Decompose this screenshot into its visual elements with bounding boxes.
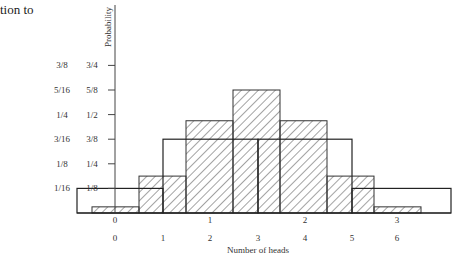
x-tick-label-lower: 6: [395, 233, 400, 243]
y-tick-label-outer: 1/16: [54, 183, 71, 193]
x-tick-label-upper: 2: [303, 215, 308, 225]
x-tick-label-lower: 2: [208, 233, 213, 243]
x-tick-label-lower: 4: [303, 233, 308, 243]
x-tick-label-upper: 0: [113, 215, 118, 225]
y-tick-label-outer: 3/8: [56, 60, 68, 70]
x-tick-label-upper: 3: [395, 215, 400, 225]
x-tick-label-upper: 1: [208, 215, 213, 225]
y-tick-label-inner: 5/8: [86, 85, 98, 95]
y-tick-label-outer: 5/16: [54, 85, 71, 95]
y-axis-label: Probability: [103, 7, 113, 47]
x-tick-label-lower: 0: [113, 233, 118, 243]
x-tick-label-lower: 3: [256, 233, 261, 243]
hatched-bar-3: [233, 90, 280, 213]
y-tick-label-inner: 1/8: [86, 183, 98, 193]
hatched-bars-6-tosses: [92, 90, 421, 213]
hatched-bar-4: [280, 121, 327, 213]
y-tick-label-inner: 1/4: [86, 159, 98, 169]
hatched-bar-6: [374, 207, 421, 213]
y-tick-label-inner: 1/2: [86, 110, 98, 120]
histogram-chart: 1/161/81/81/43/163/81/41/25/165/83/83/4P…: [0, 0, 456, 255]
hatched-bar-2: [186, 121, 233, 213]
y-tick-label-inner: 3/8: [86, 134, 98, 144]
y-tick-label-outer: 1/8: [56, 159, 68, 169]
hatched-bar-5: [327, 176, 374, 213]
y-tick-label-outer: 3/16: [54, 134, 71, 144]
y-tick-label-outer: 1/4: [56, 110, 68, 120]
y-tick-label-inner: 3/4: [86, 60, 98, 70]
x-tick-label-lower: 1: [161, 233, 166, 243]
x-tick-label-lower: 5: [350, 233, 355, 243]
x-axis-label: Number of heads: [227, 245, 289, 255]
